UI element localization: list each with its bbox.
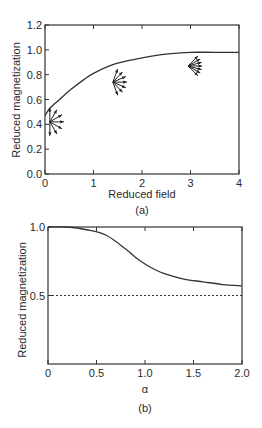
x-tick-label: 0 [45, 367, 51, 379]
panel-a: 0.00.20.40.60.81.01.2 01234 Reduced fiel… [10, 19, 242, 216]
spin-fan-icons [48, 56, 202, 136]
y-tick-label: 0.4 [27, 118, 42, 130]
figure: 0.00.20.40.60.81.01.2 01234 Reduced fiel… [0, 0, 262, 428]
x-tick-label: 3 [187, 177, 193, 189]
y-tick-label: 1.0 [27, 44, 42, 56]
y-tick-label: 0.6 [27, 94, 42, 106]
x-ticks-b: 00.51.01.52.0 [45, 227, 250, 379]
x-axis-label-a: Reduced field [108, 188, 175, 200]
panel-b: 0.51.0 00.51.01.52.0 α Reduced magnetiza… [16, 221, 250, 414]
y-tick-label: 1.0 [30, 221, 45, 233]
x-tick-label: 4 [236, 177, 242, 189]
panel-label-b: (b) [138, 402, 151, 414]
y-tick-label: 0.0 [27, 168, 42, 180]
y-ticks-a: 0.00.20.40.60.81.01.2 [27, 19, 49, 180]
x-tick-label: 0 [42, 177, 48, 189]
y-tick-label: 0.2 [27, 143, 42, 155]
x-tick-label: 1 [90, 177, 96, 189]
plot-frame-a [45, 25, 239, 174]
magnetization-curve-a [45, 52, 239, 115]
x-tick-label: 1.0 [137, 367, 152, 379]
y-axis-label-a: Reduced magnetization [10, 42, 22, 158]
x-ticks-a: 01234 [42, 25, 242, 189]
x-axis-label-b: α [142, 383, 149, 395]
y-tick-label: 0.5 [30, 290, 45, 302]
magnetization-curve-b [48, 227, 242, 286]
panel-label-a: (a) [135, 204, 148, 216]
y-axis-label-b: Reduced magnetization [16, 242, 28, 358]
x-tick-label: 0.5 [89, 367, 104, 379]
y-ticks-b: 0.51.0 [30, 221, 52, 302]
y-tick-label: 0.8 [27, 69, 42, 81]
y-tick-label: 1.2 [27, 19, 42, 31]
x-tick-label: 1.5 [186, 367, 201, 379]
x-tick-label: 2.0 [234, 367, 249, 379]
